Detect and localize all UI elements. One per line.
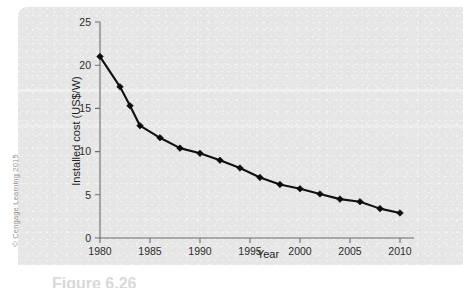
x-axis-tick-label: 2010 bbox=[388, 245, 412, 257]
x-axis-tick-label: 2005 bbox=[338, 245, 362, 257]
x-axis-tick-label: 2000 bbox=[288, 245, 312, 257]
y-axis-tick-label: 20 bbox=[79, 59, 91, 71]
data-point-marker bbox=[257, 174, 264, 181]
x-axis-tick-label: 1980 bbox=[88, 245, 112, 257]
series-line-installed-cost bbox=[100, 57, 400, 213]
figure-caption: Figure 6.26 bbox=[52, 274, 136, 288]
data-point-marker bbox=[237, 165, 244, 172]
y-axis-tick-label: 0 bbox=[85, 232, 91, 244]
data-point-marker bbox=[197, 150, 204, 157]
data-point-marker bbox=[317, 191, 324, 198]
figure-container: 0510152025 1980198519901995200020052010 … bbox=[0, 0, 463, 288]
x-axis-tick-label: 1985 bbox=[138, 245, 162, 257]
x-axis-tick-label: 1990 bbox=[188, 245, 212, 257]
y-axis-tick-label: 25 bbox=[79, 16, 91, 28]
data-point-marker bbox=[277, 181, 284, 188]
y-axis-tick-label: 5 bbox=[85, 189, 91, 201]
y-axis-title: Installed cost (US$/W) bbox=[70, 76, 82, 185]
data-series-group bbox=[97, 53, 404, 216]
x-axis-title: Year bbox=[257, 248, 280, 260]
data-point-marker bbox=[397, 210, 404, 217]
series-markers-group bbox=[97, 53, 404, 216]
chart-panel: 0510152025 1980198519901995200020052010 … bbox=[18, 7, 463, 265]
data-point-marker bbox=[217, 157, 224, 164]
axis-ticks-group bbox=[95, 22, 400, 243]
data-point-marker bbox=[297, 185, 304, 192]
x-axis-tick-labels: 1980198519901995200020052010 bbox=[88, 245, 412, 257]
copyright-credit: © Cengage Learning 2015 bbox=[11, 146, 20, 256]
line-chart-plot: 0510152025 1980198519901995200020052010 … bbox=[18, 7, 463, 265]
data-point-marker bbox=[357, 198, 364, 205]
data-point-marker bbox=[377, 205, 384, 212]
data-point-marker bbox=[337, 196, 344, 203]
